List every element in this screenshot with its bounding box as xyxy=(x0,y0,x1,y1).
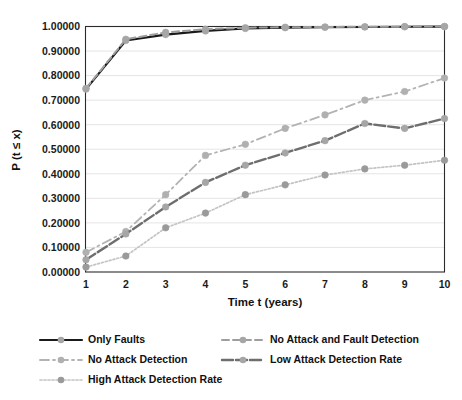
data-point xyxy=(362,23,369,30)
data-point xyxy=(162,204,169,211)
x-axis-tick-label: 3 xyxy=(163,278,169,290)
legend-item-label: High Attack Detection Rate xyxy=(88,373,223,385)
x-axis-tick-label: 7 xyxy=(322,278,328,290)
data-point xyxy=(242,162,249,169)
y-axis-tick-label: 0.00000 xyxy=(42,266,80,278)
data-point xyxy=(242,141,249,148)
data-point xyxy=(322,112,329,119)
data-point xyxy=(202,152,209,159)
legend-swatch-marker xyxy=(240,337,247,344)
data-point xyxy=(401,88,408,95)
data-point xyxy=(401,162,408,169)
data-point xyxy=(123,253,130,260)
data-point xyxy=(322,172,329,179)
data-point xyxy=(242,191,249,198)
data-point xyxy=(441,75,448,82)
x-axis-tick-label: 4 xyxy=(203,278,209,290)
legend-item-label: Low Attack Detection Rate xyxy=(270,353,402,365)
data-point xyxy=(441,157,448,164)
data-point xyxy=(441,23,448,30)
legend-item-label: No Attack Detection xyxy=(88,353,187,365)
y-axis-title: P (t ≤ x) xyxy=(10,129,22,170)
data-point xyxy=(282,150,289,157)
line-chart: 0.000000.100000.200000.300000.400000.500… xyxy=(0,0,462,400)
data-point xyxy=(123,36,130,43)
x-axis-title: Time t (years) xyxy=(228,296,303,308)
data-point xyxy=(401,23,408,30)
data-point xyxy=(282,182,289,189)
data-point xyxy=(362,97,369,104)
data-point xyxy=(282,24,289,31)
y-axis-tick-label: 0.30000 xyxy=(42,192,80,204)
y-axis-tick-label: 1.00000 xyxy=(42,20,80,32)
legend-swatch-marker xyxy=(58,357,65,364)
y-axis-tick-label: 0.40000 xyxy=(42,168,80,180)
data-point xyxy=(441,115,448,122)
x-axis-tick-label: 9 xyxy=(402,278,408,290)
data-point xyxy=(162,29,169,36)
data-point xyxy=(242,24,249,31)
data-point xyxy=(123,231,130,238)
data-point xyxy=(83,249,90,256)
data-point xyxy=(83,256,90,263)
chart-container: 0.000000.100000.200000.300000.400000.500… xyxy=(0,0,462,400)
data-point xyxy=(83,85,90,92)
legend-swatch-marker xyxy=(58,377,65,384)
x-axis-tick-label: 6 xyxy=(282,278,288,290)
legend-swatch-marker xyxy=(240,357,247,364)
x-axis-tick-label: 1 xyxy=(83,278,89,290)
data-point xyxy=(362,166,369,173)
data-point xyxy=(162,191,169,198)
y-axis-tick-label: 0.80000 xyxy=(42,69,80,81)
data-point xyxy=(322,137,329,144)
x-axis-tick-label: 5 xyxy=(242,278,248,290)
y-axis-tick-label: 0.10000 xyxy=(42,241,80,253)
x-axis-tick-label: 10 xyxy=(439,278,451,290)
y-axis-tick-label: 0.20000 xyxy=(42,217,80,229)
y-axis-tick-label: 0.50000 xyxy=(42,143,80,155)
data-point xyxy=(83,264,90,271)
x-axis-tick-label: 2 xyxy=(123,278,129,290)
data-point xyxy=(202,179,209,186)
data-point xyxy=(401,125,408,132)
data-point xyxy=(282,125,289,132)
data-point xyxy=(362,120,369,127)
data-point xyxy=(202,210,209,217)
data-point xyxy=(202,26,209,33)
y-axis-tick-label: 0.90000 xyxy=(42,45,80,57)
y-axis-tick-label: 0.70000 xyxy=(42,94,80,106)
y-axis-tick-label: 0.60000 xyxy=(42,119,80,131)
legend-swatch-marker xyxy=(58,337,65,344)
legend-item-label: No Attack and Fault Detection xyxy=(270,333,419,345)
data-point xyxy=(162,225,169,232)
x-axis-tick-label: 8 xyxy=(362,278,368,290)
legend-item-label: Only Faults xyxy=(88,333,145,345)
data-point xyxy=(322,24,329,31)
